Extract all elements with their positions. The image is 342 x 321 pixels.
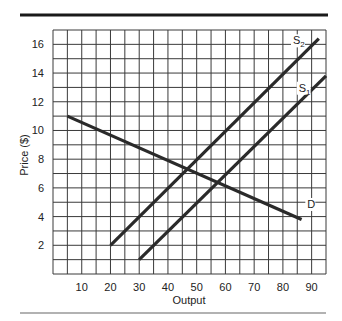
x-axis-title: Output xyxy=(172,294,205,306)
chart-grid xyxy=(53,30,326,274)
y-tick-label: 12 xyxy=(32,96,44,108)
x-tick-label: 70 xyxy=(248,281,260,293)
x-axis-ticks: 102030405060708090 xyxy=(76,281,318,293)
y-axis-title: Price ($) xyxy=(18,134,30,176)
x-tick-label: 90 xyxy=(306,281,318,293)
y-tick-label: 4 xyxy=(38,211,44,223)
y-tick-label: 6 xyxy=(38,182,44,194)
series-label-d: D xyxy=(307,198,315,210)
y-tick-label: 8 xyxy=(38,153,44,165)
y-axis-ticks: 246810121416 xyxy=(32,38,44,251)
supply-demand-chart: 246810121416 102030405060708090 DS2S1 Pr… xyxy=(0,0,342,321)
x-tick-label: 20 xyxy=(104,281,116,293)
x-tick-label: 50 xyxy=(191,281,203,293)
y-tick-label: 14 xyxy=(32,67,44,79)
y-tick-label: 16 xyxy=(32,38,44,50)
series-line-d xyxy=(67,116,301,219)
x-tick-label: 30 xyxy=(133,281,145,293)
x-tick-label: 80 xyxy=(277,281,289,293)
x-tick-label: 60 xyxy=(219,281,231,293)
y-tick-label: 2 xyxy=(38,239,44,251)
series-line-s1 xyxy=(139,76,326,260)
y-tick-label: 10 xyxy=(32,124,44,136)
x-tick-label: 40 xyxy=(162,281,174,293)
x-tick-label: 10 xyxy=(76,281,88,293)
